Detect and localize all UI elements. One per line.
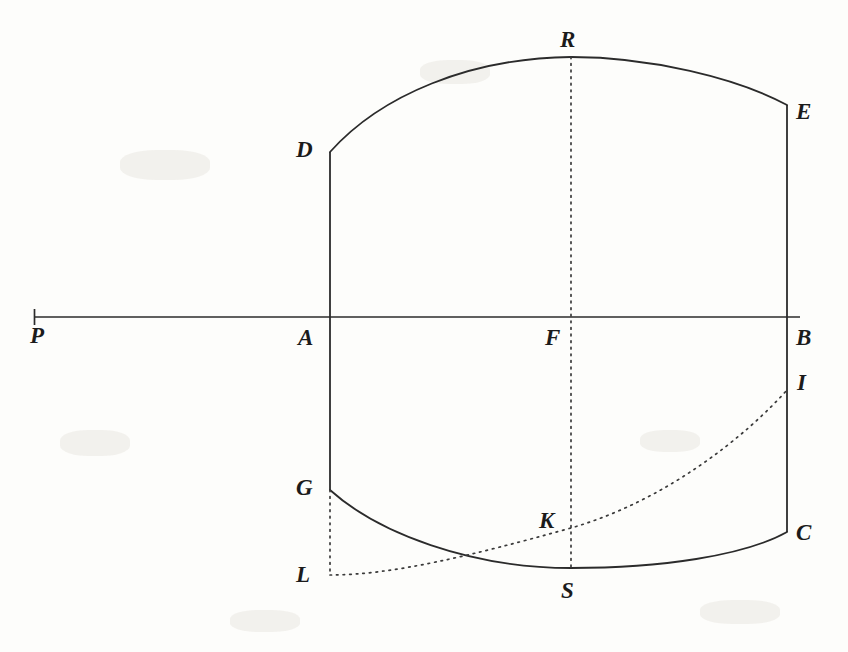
dotted-curve-LKI	[330, 390, 787, 575]
point-label-A: A	[298, 326, 313, 349]
point-label-P: P	[30, 324, 44, 347]
geometric-figure: P D R E A F B I G K C L S	[0, 0, 848, 652]
point-label-E: E	[796, 100, 811, 123]
point-label-C: C	[796, 521, 811, 544]
point-label-S: S	[561, 579, 574, 602]
point-label-I: I	[797, 371, 806, 394]
arc-DRE	[330, 57, 787, 152]
point-label-F: F	[545, 326, 560, 349]
point-label-B: B	[796, 326, 811, 349]
point-label-L: L	[296, 563, 310, 586]
point-label-D: D	[296, 138, 313, 161]
point-label-G: G	[296, 476, 313, 499]
arc-GSC	[330, 490, 787, 568]
point-label-R: R	[560, 28, 575, 51]
figure-canvas	[0, 0, 848, 652]
point-label-K: K	[539, 509, 554, 532]
